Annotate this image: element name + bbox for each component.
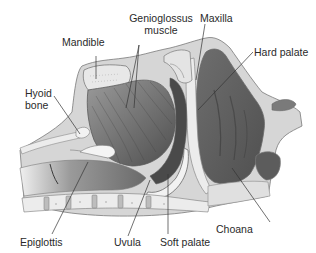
label-epiglottis: Epiglottis — [20, 236, 63, 248]
nasal-cavity — [195, 49, 264, 184]
label-genioglossus-line2: muscle — [126, 24, 196, 36]
label-hyoid-bone: Hyoid bone — [25, 87, 52, 111]
nasal-floor — [208, 181, 270, 206]
anatomy-illustration — [0, 0, 316, 253]
label-choana: Choana — [216, 223, 253, 235]
label-hyoid-line1: Hyoid — [25, 87, 52, 99]
label-mandible: Mandible — [62, 36, 105, 48]
label-genioglossus-muscle: Genioglossus muscle — [126, 12, 196, 36]
label-maxilla: Maxilla — [200, 12, 233, 24]
anatomy-diagram: Genioglossus muscle Maxilla Mandible Har… — [0, 0, 316, 253]
label-uvula: Uvula — [114, 236, 141, 248]
label-soft-palate: Soft palate — [160, 236, 210, 248]
label-hyoid-line2: bone — [25, 99, 52, 111]
label-genioglossus-line1: Genioglossus — [126, 12, 196, 24]
label-hard-palate: Hard palate — [254, 46, 308, 58]
